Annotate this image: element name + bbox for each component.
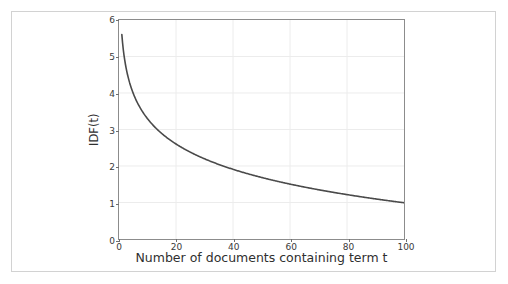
y-tick-label: 6	[109, 16, 115, 25]
x-tick-mark	[119, 239, 120, 242]
y-tick-label: 5	[109, 52, 115, 61]
y-tick-mark	[116, 20, 119, 21]
y-tick-label: 2	[109, 163, 115, 172]
idf-curve	[119, 20, 404, 239]
figure-canvas: IDF(t) 0123456 020406080100 Number of do…	[0, 0, 508, 284]
idf-curve-path	[122, 35, 404, 203]
x-tick-mark	[291, 239, 292, 242]
y-axis-title-text: IDF(t)	[89, 113, 101, 145]
x-tick-mark	[406, 239, 407, 242]
x-tick-label: 0	[116, 243, 122, 252]
y-tick-label: 0	[109, 237, 115, 246]
x-tick-mark	[234, 239, 235, 242]
x-tick-label: 100	[397, 243, 414, 252]
x-axis-title: Number of documents containing term t	[118, 252, 405, 265]
y-axis-title: IDF(t)	[87, 19, 103, 240]
y-tick-mark	[116, 57, 119, 58]
y-tick-label: 1	[109, 200, 115, 209]
x-tick-mark	[349, 239, 350, 242]
x-tick-mark	[176, 239, 177, 242]
y-tick-mark	[116, 167, 119, 168]
y-tick-mark	[116, 131, 119, 132]
plot-area: 0123456 020406080100	[118, 19, 405, 240]
y-tick-label: 3	[109, 126, 115, 135]
y-tick-mark	[116, 94, 119, 95]
y-tick-mark	[116, 204, 119, 205]
y-tick-label: 4	[109, 89, 115, 98]
